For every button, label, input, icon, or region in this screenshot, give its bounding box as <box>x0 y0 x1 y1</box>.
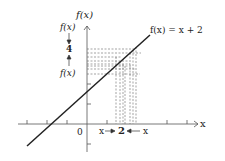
bottom-bracket-right: x <box>143 126 148 136</box>
x-axis-label: x <box>200 118 206 129</box>
left-bracket-bottom: f(x) <box>59 68 76 78</box>
left-bracket-top: f(x) <box>59 22 76 32</box>
function-label: f(x) = x + 2 <box>150 25 203 35</box>
left-bracket-middle: 4 <box>66 44 72 54</box>
y-axis-label: f(x) <box>75 9 93 20</box>
bottom-bracket-middle: 2 <box>118 125 125 136</box>
bottom-bracket-left: x <box>99 126 104 136</box>
origin-label: 0 <box>77 127 83 137</box>
axes <box>18 26 198 152</box>
limit-diagram: f(x) f(x) = x + 2 x 0 f(x) 4 f(x) x 2 x <box>0 0 225 161</box>
function-line <box>27 35 150 146</box>
